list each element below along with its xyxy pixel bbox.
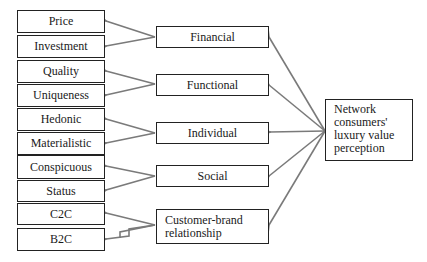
arrow-root-financial bbox=[269, 37, 325, 131]
leaf-conspicuous: Conspicuous bbox=[17, 155, 105, 179]
arrow-root-individual bbox=[270, 131, 325, 132]
dimension-label: Functional bbox=[187, 79, 238, 92]
root-network-consumers-luxury-value-perception: Network consumers' luxury value percepti… bbox=[325, 99, 413, 161]
arrow-root-functional bbox=[269, 85, 325, 131]
root-label-line: perception bbox=[334, 142, 394, 155]
leaf-materialistic: Materialistic bbox=[17, 132, 105, 155]
arrow-root-social bbox=[269, 131, 325, 176]
arrow-root-customer-brand bbox=[269, 131, 325, 225]
leaf-label: Quality bbox=[43, 65, 79, 78]
leaf-b2c: B2C bbox=[17, 228, 105, 251]
dimension-label: Social bbox=[198, 170, 228, 183]
leaf-c2c: C2C bbox=[17, 203, 105, 225]
dimension-individual: Individual bbox=[156, 122, 269, 144]
leaf-hedonic: Hedonic bbox=[17, 108, 105, 131]
leaf-label: B2C bbox=[50, 233, 72, 246]
leaf-label: Conspicuous bbox=[30, 161, 92, 174]
dimension-financial: Financial bbox=[156, 26, 269, 48]
leaf-label: Materialistic bbox=[31, 137, 92, 150]
dimension-label: Individual bbox=[188, 127, 237, 140]
leaf-label: Status bbox=[46, 185, 75, 198]
leaf-investment: Investment bbox=[17, 35, 105, 58]
leaf-label: Hedonic bbox=[41, 113, 82, 126]
dimension-social: Social bbox=[156, 165, 269, 187]
leaf-price: Price bbox=[17, 10, 105, 33]
leaf-uniqueness: Uniqueness bbox=[17, 84, 105, 107]
leaf-label: Investment bbox=[34, 40, 87, 53]
leaf-label: C2C bbox=[50, 208, 72, 221]
leaf-label: Uniqueness bbox=[33, 89, 89, 102]
dimension-functional: Functional bbox=[156, 74, 269, 96]
dimension-customer-brand-relationship: Customer-brand relationship bbox=[156, 209, 269, 244]
leaf-label: Price bbox=[49, 15, 74, 28]
dimension-label-line: relationship bbox=[165, 227, 243, 240]
dimension-label: Financial bbox=[190, 31, 235, 44]
leaf-quality: Quality bbox=[17, 60, 105, 83]
leaf-status: Status bbox=[17, 180, 105, 202]
